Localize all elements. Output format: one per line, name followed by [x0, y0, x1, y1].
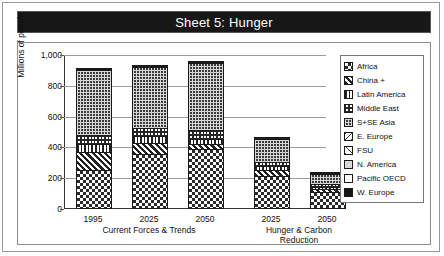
x-tick-label: 2025 [241, 214, 301, 224]
legend-item[interactable]: Latin America [344, 87, 420, 101]
legend-swatch-icon [344, 76, 353, 85]
y-tick-label: 200 [28, 173, 62, 183]
bar-segment [255, 140, 289, 163]
legend-item[interactable]: Africa [344, 59, 420, 73]
bar-segment [133, 155, 167, 208]
legend-swatch-icon [344, 160, 353, 169]
legend-item[interactable]: S+SE Asia [344, 115, 420, 129]
legend-swatch-icon [344, 132, 353, 141]
legend: AfricaChina +Latin AmericaMiddle EastS+S… [340, 55, 424, 203]
legend-item[interactable]: E. Europe [344, 129, 420, 143]
legend-item[interactable]: N. America [344, 157, 420, 171]
x-group-label: Hunger & Carbon Reduction [254, 225, 344, 245]
y-tick-label: 1,000 [28, 50, 62, 60]
legend-label: S+SE Asia [357, 118, 395, 127]
y-tick-label: 0 [28, 204, 62, 214]
stacked-bar[interactable] [132, 65, 168, 209]
legend-swatch-icon [344, 146, 353, 155]
legend-swatch-icon [344, 62, 353, 71]
y-tick-label: 400 [28, 142, 62, 152]
legend-item[interactable]: Pacific OECD [344, 171, 420, 185]
legend-item[interactable]: China + [344, 73, 420, 87]
bar-segment [77, 136, 111, 144]
y-tick-mark [60, 147, 64, 148]
legend-swatch-icon [344, 118, 353, 127]
chart-frame: Millions of people 02004006008001,000 Af… [17, 42, 431, 245]
legend-label: FSU [357, 146, 373, 155]
bar-segment [77, 153, 111, 171]
legend-label: China + [357, 76, 385, 85]
legend-label: W. Europe [357, 188, 394, 197]
x-group-label: Current Forces & Trends [76, 225, 222, 235]
title-bar: Sheet 5: Hunger [17, 11, 431, 33]
bar-segment [255, 177, 289, 208]
stacked-bar[interactable] [76, 68, 112, 209]
legend-label: N. America [357, 160, 396, 169]
legend-item[interactable]: Middle East [344, 101, 420, 115]
y-tick-label: 800 [28, 81, 62, 91]
y-tick-mark [60, 55, 64, 56]
bar-segment [133, 68, 167, 129]
outer-frame: Sheet 5: Hunger Millions of people 02004… [2, 2, 440, 252]
bar-segment [77, 171, 111, 208]
y-tick-mark [60, 86, 64, 87]
x-tick-label: 2050 [175, 214, 235, 224]
legend-swatch-icon [344, 174, 353, 183]
legend-swatch-icon [344, 104, 353, 113]
x-tick-label: 1995 [63, 214, 123, 224]
y-tick-mark [60, 209, 64, 210]
stacked-bar[interactable] [254, 137, 290, 210]
y-axis-ticks: 02004006008001,000 [22, 43, 62, 244]
legend-swatch-icon [344, 90, 353, 99]
bar-segment [133, 144, 167, 155]
legend-label: E. Europe [357, 132, 393, 141]
bar-segment [133, 137, 167, 144]
y-tick-mark [60, 117, 64, 118]
y-tick-label: 600 [28, 112, 62, 122]
bar-segment [189, 64, 223, 131]
x-tick-label: 2025 [119, 214, 179, 224]
stacked-bar[interactable] [188, 61, 224, 209]
gridline [64, 55, 326, 56]
plot-area [64, 55, 326, 209]
legend-item[interactable]: FSU [344, 143, 420, 157]
y-axis-line [64, 55, 65, 209]
bar-segment [77, 71, 111, 136]
bar-segment [77, 145, 111, 153]
x-tick-label: 2050 [297, 214, 357, 224]
legend-label: Latin America [357, 90, 405, 99]
chart-screenshot: Sheet 5: Hunger Millions of people 02004… [0, 0, 444, 256]
legend-label: Africa [357, 62, 377, 71]
legend-label: Pacific OECD [357, 174, 406, 183]
bar-segment [189, 150, 223, 208]
page-title: Sheet 5: Hunger [175, 15, 273, 30]
legend-item[interactable]: W. Europe [344, 185, 420, 199]
bar-segment [133, 129, 167, 137]
legend-swatch-icon [344, 188, 353, 197]
y-tick-mark [60, 178, 64, 179]
legend-label: Middle East [357, 104, 399, 113]
bar-segment [189, 131, 223, 139]
